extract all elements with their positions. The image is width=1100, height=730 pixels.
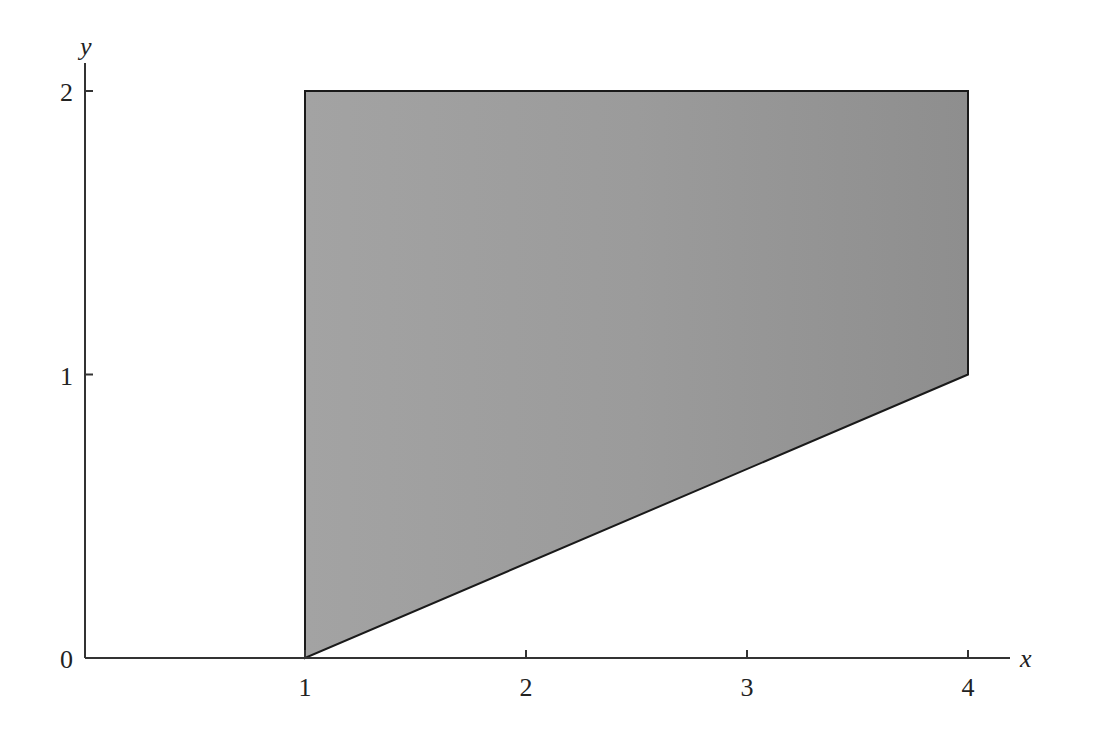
y-axis-ticks: 012 (60, 78, 93, 674)
x-tick-label: 2 (520, 673, 533, 702)
y-tick-label: 2 (60, 78, 73, 107)
region-diagram: 1234 012 x y (0, 0, 1100, 730)
x-tick-label: 4 (962, 673, 975, 702)
x-tick-label: 1 (299, 673, 312, 702)
y-axis-label: y (77, 32, 92, 61)
x-tick-label: 3 (741, 673, 754, 702)
y-tick-label: 1 (60, 362, 73, 391)
x-axis-label: x (1019, 644, 1032, 673)
shaded-region (305, 91, 968, 658)
y-tick-label: 0 (60, 645, 73, 674)
